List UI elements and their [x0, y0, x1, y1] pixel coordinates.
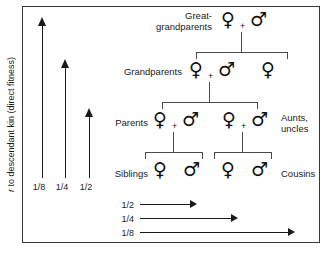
- vertical-arrow-1-4: [61, 59, 70, 178]
- horizontal-arrow-label-1-2: 1/2: [110, 200, 134, 210]
- mating-plus-aunts-uncles: +: [241, 122, 246, 131]
- arrow-shaft: [140, 204, 191, 205]
- female-symbol-grandaunt: ♀: [261, 60, 275, 79]
- horizontal-arrow-label-1-4: 1/4: [110, 214, 134, 224]
- connector-drop-gp: [209, 82, 210, 102]
- male-symbol-father: ♂: [182, 110, 199, 129]
- connector-drop-aunts: [242, 132, 243, 152]
- vertical-arrow-label-1-8: 1/8: [28, 182, 50, 192]
- generation-label-aunts-uncles: Aunts, uncles: [281, 112, 329, 134]
- generation-label-siblings: Siblings: [102, 168, 148, 179]
- connector-branch-parents-left: [145, 152, 146, 159]
- connector-branch-aunts-left: [214, 152, 215, 159]
- male-symbol-grandfather: ♂: [218, 60, 235, 79]
- male-symbol-brother: ♂: [183, 160, 200, 179]
- vertical-arrow-1-2: [85, 108, 94, 178]
- connector-bar-ggp: [196, 52, 287, 53]
- y-axis-label-italic: r: [6, 189, 16, 192]
- y-axis-label: r to descendant kin (direct fitness): [4, 6, 18, 243]
- arrow-shaft: [89, 114, 90, 178]
- female-symbol-cousin: ♀: [221, 160, 235, 179]
- connector-bar-aunts: [214, 152, 271, 153]
- connector-branch-parents-right: [202, 152, 203, 159]
- relatedness-pedigree-figure: r to descendant kin (direct fitness) 1/8…: [0, 0, 331, 257]
- mating-plus-parents: +: [172, 122, 177, 131]
- generation-label-parents: Parents: [104, 117, 148, 128]
- female-symbol-great-grandmother: ♀: [221, 10, 235, 29]
- connector-branch-ggp-right: [287, 52, 288, 59]
- vertical-arrow-label-1-4: 1/4: [51, 182, 73, 192]
- arrow-head-icon: [288, 228, 295, 236]
- horizontal-arrow-1-4: [140, 214, 238, 223]
- connector-drop-parents: [173, 132, 174, 152]
- female-symbol-mother: ♀: [153, 110, 167, 129]
- generation-label-great-grandparents: Great- grandparents: [150, 10, 212, 32]
- arrow-head-icon: [190, 200, 197, 208]
- arrow-shaft: [140, 232, 289, 233]
- male-symbol-cousin: ♂: [251, 160, 268, 179]
- male-symbol-great-grandfather: ♂: [250, 10, 267, 29]
- mating-plus-grandparents: +: [208, 72, 213, 81]
- arrow-shaft: [42, 23, 43, 178]
- arrow-head-icon: [231, 214, 238, 222]
- mating-plus-great-grandparents: +: [240, 22, 245, 31]
- arrow-shaft: [140, 218, 232, 219]
- connector-bar-gp: [162, 102, 257, 103]
- arrow-shaft: [65, 65, 66, 178]
- vertical-arrow-label-1-2: 1/2: [75, 182, 97, 192]
- horizontal-arrow-1-2: [140, 200, 197, 209]
- connector-drop-ggp: [241, 32, 242, 52]
- generation-label-cousins: Cousins: [281, 168, 329, 179]
- horizontal-arrow-label-1-8: 1/8: [110, 228, 134, 238]
- female-symbol-aunt: ♀: [222, 110, 236, 129]
- y-axis-label-rest: to descendant kin (direct fitness): [6, 57, 16, 189]
- horizontal-arrow-1-8: [140, 228, 295, 237]
- connector-bar-parents: [145, 152, 202, 153]
- female-symbol-sister: ♀: [153, 160, 167, 179]
- generation-label-grandparents: Grandparents: [114, 66, 182, 77]
- connector-branch-aunts-right: [271, 152, 272, 159]
- male-symbol-uncle: ♂: [251, 110, 268, 129]
- vertical-arrow-1-8: [38, 17, 47, 178]
- female-symbol-grandmother: ♀: [189, 60, 203, 79]
